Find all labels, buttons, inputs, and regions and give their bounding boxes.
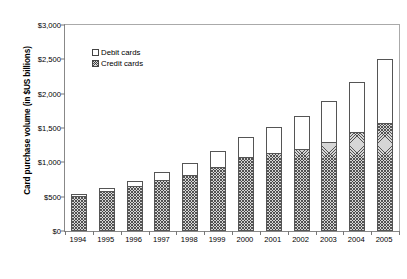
x-axis-tick-label: 1994 — [69, 235, 86, 244]
bar-segment-debit-cards — [349, 82, 365, 133]
bar-segment-credit-cards — [294, 149, 310, 231]
x-axis-tick-mark — [232, 231, 233, 235]
bar-segment-credit-cards — [127, 186, 143, 231]
y-axis-tick-label: $2,500 — [38, 55, 61, 64]
bar-segment-debit-cards — [238, 137, 254, 159]
x-axis-tick-label: 2001 — [264, 235, 281, 244]
bar-segment-debit-cards — [294, 116, 310, 150]
x-axis-tick-mark — [316, 231, 317, 235]
bar-segment-credit-cards — [238, 157, 254, 231]
x-axis-tick-label: 2002 — [292, 235, 309, 244]
bar-segment-debit-cards — [266, 127, 282, 154]
y-axis-tick-label: $1,000 — [38, 158, 61, 167]
x-axis-tick-mark — [343, 231, 344, 235]
legend-label-debit: Debit cards — [101, 48, 140, 57]
bar-segment-debit-cards — [99, 188, 115, 192]
bar-segment-credit-cards — [71, 196, 87, 231]
x-axis-tick-mark — [93, 231, 94, 235]
bar-segment-credit-cards — [182, 175, 198, 231]
y-axis-tick-label: $500 — [44, 192, 61, 201]
bar-segment-credit-cards — [210, 167, 226, 231]
bar-segment-debit-cards — [71, 194, 87, 197]
legend-item-credit-cards: Credit cards — [92, 59, 143, 68]
bar-segment-credit-cards — [321, 142, 337, 231]
bar-segment-debit-cards — [182, 163, 198, 176]
bar-segment-credit-cards — [154, 180, 170, 231]
x-axis-tick-label: 1999 — [209, 235, 226, 244]
y-axis-tick-label: $2,000 — [38, 89, 61, 98]
bar-segment-debit-cards — [377, 59, 393, 124]
x-axis-tick-label: 2003 — [320, 235, 337, 244]
x-axis-tick-label: 1995 — [97, 235, 114, 244]
bar-segment-debit-cards — [154, 172, 170, 181]
x-axis-tick-mark — [149, 231, 150, 235]
x-axis-tick-mark — [176, 231, 177, 235]
bar-segment-credit-cards — [99, 191, 115, 231]
bar-segment-debit-cards — [210, 151, 226, 168]
legend-item-debit-cards: Debit cards — [92, 48, 143, 57]
x-axis-tick-label: 2004 — [348, 235, 365, 244]
x-axis-tick-mark — [260, 231, 261, 235]
y-axis-tick-label: $1,500 — [38, 124, 61, 133]
bar-segment-debit-cards — [127, 181, 143, 187]
x-axis-tick-mark — [65, 231, 66, 235]
legend-swatch-credit-icon — [92, 60, 99, 67]
x-axis-tick-mark — [288, 231, 289, 235]
x-axis-tick-mark — [204, 231, 205, 235]
x-axis-tick-mark — [121, 231, 122, 235]
bar-segment-credit-cards — [349, 132, 365, 231]
bar-segment-debit-cards — [321, 101, 337, 143]
y-axis-tick-label: $0 — [53, 227, 61, 236]
x-axis-tick-label: 1997 — [153, 235, 170, 244]
x-axis-tick-label: 1998 — [181, 235, 198, 244]
bar-segment-credit-cards — [266, 153, 282, 231]
x-axis-tick-label: 1996 — [125, 235, 142, 244]
legend-label-credit: Credit cards — [101, 59, 143, 68]
y-axis-title: Card purchase volume (in $US billions) — [23, 21, 32, 221]
x-axis-tick-label: 2005 — [376, 235, 393, 244]
y-axis-tick-label: $3,000 — [38, 21, 61, 30]
bar-segment-credit-cards — [377, 123, 393, 231]
legend-swatch-debit-icon — [92, 49, 99, 56]
chart-figure: Card purchase volume (in $US billions) $… — [0, 0, 407, 279]
x-axis-tick-mark — [371, 231, 372, 235]
x-axis-tick-mark — [399, 231, 400, 235]
chart-legend: Debit cards Credit cards — [92, 48, 143, 68]
x-axis-tick-label: 2000 — [236, 235, 253, 244]
